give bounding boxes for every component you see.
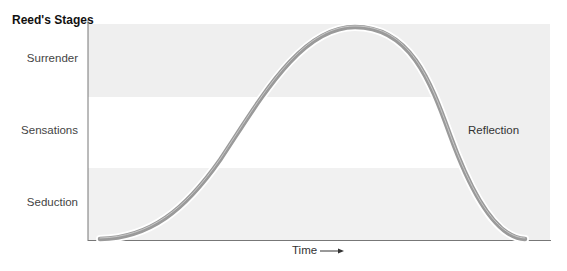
reflection-label: Reflection (468, 124, 519, 136)
time-arrow-icon (338, 249, 344, 254)
x-axis-label: Time (292, 244, 317, 256)
